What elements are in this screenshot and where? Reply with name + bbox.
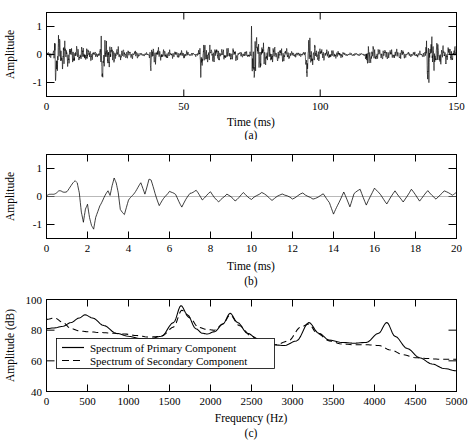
panel-b-xtick-20: 20 [451,242,463,254]
panel-b-xtick-4: 4 [126,242,132,254]
panel-c-xtick-2000: 2000 [200,395,223,407]
panel-a-caption: (a) [245,129,258,140]
panel-c: 406080100 050010001500200025003000350040… [0,288,475,440]
figure-container: 1 0 -1 0 50 100 150 Amplitude Time (ms) … [0,0,475,440]
panel-b-xtick-10: 10 [246,242,258,254]
panel-a-ylabel: Amplitude [4,30,17,79]
panel-c-caption: (c) [245,427,258,440]
panel-c-ytick-80: 80 [31,324,43,336]
panel-b-xtick-12: 12 [287,242,298,254]
panel-a-xtick-50: 50 [178,100,190,112]
panel-c-xtick-0: 0 [44,395,50,407]
panel-c-ytick-60: 60 [31,355,43,367]
panel-b-ylabel: Amplitude [4,172,17,221]
panel-a-ytick-minus1: -1 [33,76,42,88]
panel-a-ytick-0: 0 [37,48,43,60]
panel-b-ytick-1: 1 [37,162,43,174]
panel-a-waveform [47,26,457,83]
panel-c-xtick-5000: 5000 [446,395,469,407]
panel-b-xtick-18: 18 [410,242,422,254]
panel-a-xtick-100: 100 [312,100,329,112]
legend-label-secondary: Spectrum of Secondary Component [90,355,247,367]
panel-b-ytick-0: 0 [37,190,43,202]
panel-c-xtick-4500: 4500 [405,395,428,407]
panel-b-xtick-2: 2 [85,242,91,254]
panel-c-svg: 406080100 050010001500200025003000350040… [0,288,475,440]
panel-c-xtick-3000: 3000 [282,395,305,407]
panel-c-ylabel: Amplitude (dB) [4,309,17,382]
panel-c-xtick-500: 500 [79,395,96,407]
panel-c-xlabel: Frequency (Hz) [215,412,288,425]
panel-a-xtick-150: 150 [448,100,465,112]
panel-c-xtick-1000: 1000 [118,395,141,407]
panel-b-caption: (b) [244,275,258,288]
panel-b-xlabel: Time (ms) [227,260,275,273]
panel-a-xtick-0: 0 [44,100,50,112]
panel-b: 1 0 -1 02468101214161820 Amplitude Time … [0,140,475,288]
panel-c-xtick-4000: 4000 [364,395,387,407]
panel-a-xlabel: Time (ms) [227,116,275,129]
panel-a: 1 0 -1 0 50 100 150 Amplitude Time (ms) … [0,0,475,140]
panel-c-legend: Spectrum of Primary Component Spectrum o… [57,339,275,369]
panel-b-ytick-minus1: -1 [33,218,42,230]
panel-b-xtick-14: 14 [328,242,340,254]
panel-b-svg: 1 0 -1 02468101214161820 Amplitude Time … [0,140,475,288]
legend-label-primary: Spectrum of Primary Component [90,342,236,354]
panel-c-xtick-2500: 2500 [241,395,264,407]
panel-b-xtick-6: 6 [167,242,173,254]
panel-c-y-tick-labels: 406080100 [26,294,43,398]
panel-b-xtick-0: 0 [44,242,50,254]
panel-b-x-tick-labels: 02468101214161820 [44,242,463,254]
panel-c-ytick-40: 40 [31,386,43,398]
panel-a-ytick-1: 1 [37,20,43,32]
panel-b-xtick-8: 8 [208,242,214,254]
panel-c-xtick-3500: 3500 [323,395,346,407]
panel-c-ytick-100: 100 [26,294,43,306]
panel-a-svg: 1 0 -1 0 50 100 150 Amplitude Time (ms) … [0,0,475,140]
panel-c-xtick-1500: 1500 [159,395,182,407]
panel-b-waveform [47,178,457,229]
panel-b-xtick-16: 16 [369,242,381,254]
panel-c-x-tick-labels: 0500100015002000250030003500400045005000 [44,395,468,407]
